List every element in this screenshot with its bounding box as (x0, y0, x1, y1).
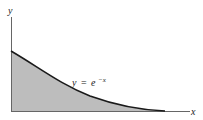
function-label-eq: = (81, 77, 87, 88)
y-axis-label: y (7, 5, 13, 16)
function-label-base: e (91, 77, 96, 88)
function-label-lhs: y (71, 77, 77, 88)
function-label-exponent: −x (98, 76, 107, 84)
exponential-decay-diagram: y x y = e −x (0, 0, 203, 120)
function-label: y = e −x (71, 76, 107, 88)
x-axis-label: x (190, 106, 196, 117)
